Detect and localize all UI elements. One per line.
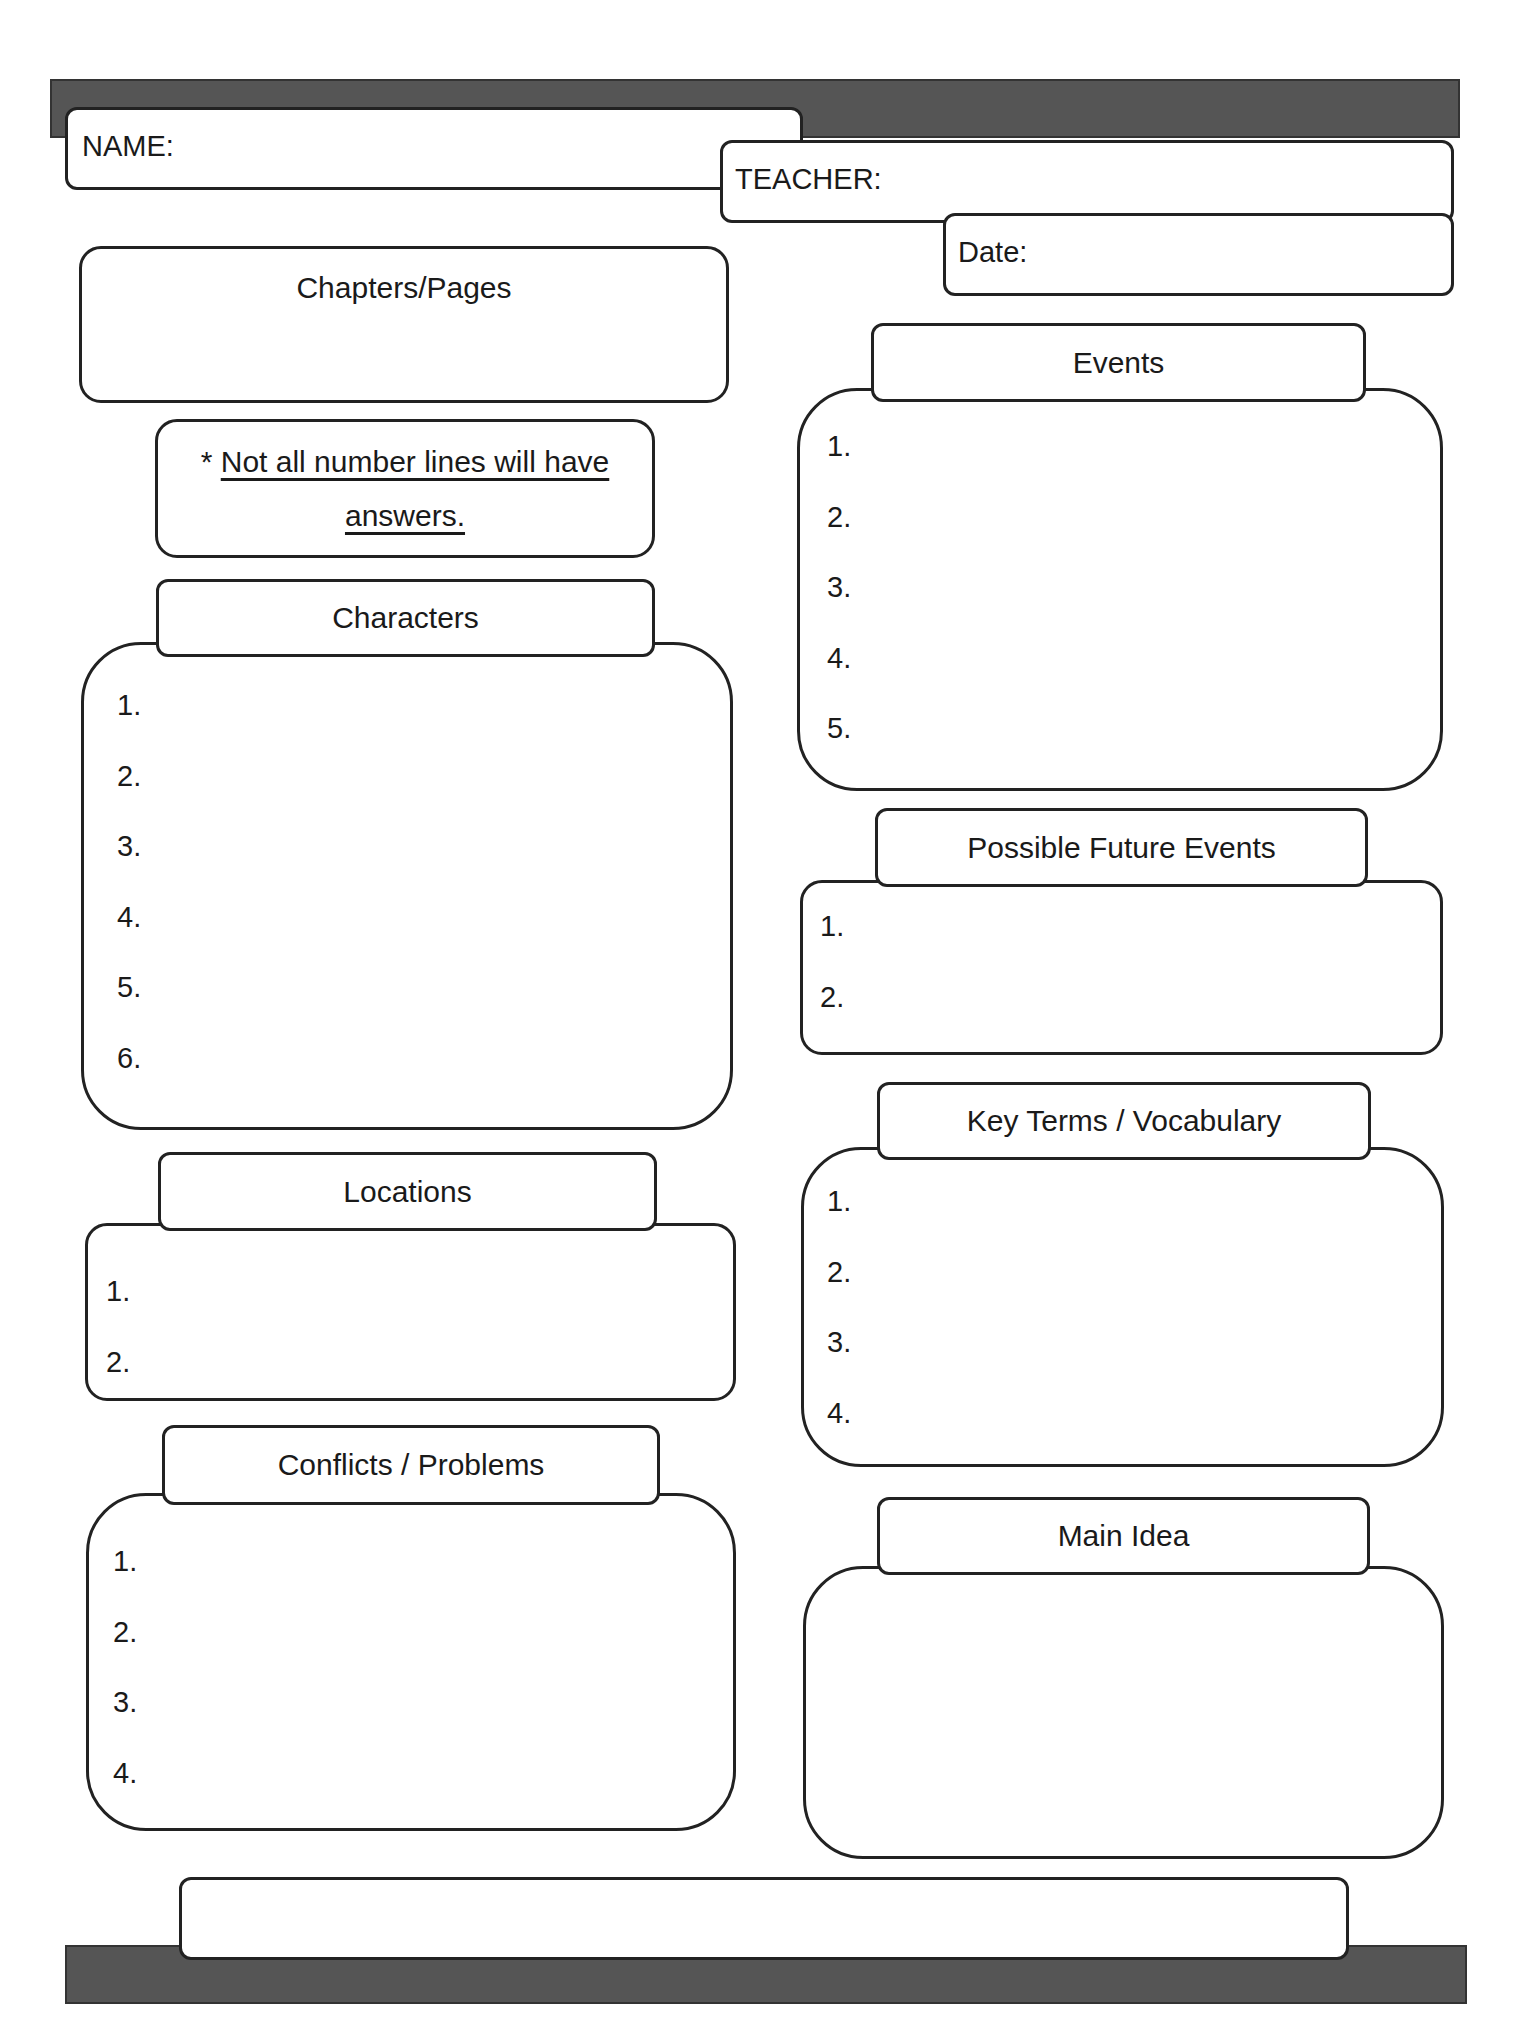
list-item: 5.	[827, 693, 851, 764]
list-item: 1.	[827, 411, 851, 482]
future-events-tab: Possible Future Events	[875, 808, 1368, 887]
list-item: 4.	[113, 1738, 137, 1809]
list-item: 5.	[117, 952, 141, 1023]
future-events-box[interactable]: 1. 2.	[800, 880, 1443, 1055]
conflicts-title: Conflicts / Problems	[278, 1448, 545, 1482]
teacher-field[interactable]: TEACHER:	[720, 140, 1454, 223]
list-item: 1.	[113, 1526, 137, 1597]
list-item: 6.	[117, 1023, 141, 1094]
teacher-label: TEACHER:	[735, 163, 882, 196]
key-terms-list: 1. 2. 3. 4.	[827, 1166, 851, 1448]
main-idea-title: Main Idea	[1058, 1519, 1190, 1553]
events-box[interactable]: 1. 2. 3. 4. 5.	[797, 388, 1443, 791]
characters-box[interactable]: 1. 2. 3. 4. 5. 6.	[81, 642, 733, 1130]
date-field[interactable]: Date:	[943, 213, 1454, 296]
list-item: 3.	[827, 1307, 851, 1378]
list-item: 4.	[827, 623, 851, 694]
locations-title: Locations	[343, 1175, 471, 1209]
events-tab: Events	[871, 323, 1366, 402]
list-item: 3.	[113, 1667, 137, 1738]
date-label: Date:	[958, 236, 1027, 269]
locations-tab: Locations	[158, 1152, 657, 1231]
locations-list: 1. 2.	[106, 1256, 130, 1397]
list-item: 2.	[117, 741, 141, 812]
conflicts-box[interactable]: 1. 2. 3. 4.	[86, 1493, 736, 1831]
list-item: 1.	[106, 1256, 130, 1327]
key-terms-title: Key Terms / Vocabulary	[967, 1104, 1282, 1138]
list-item: 2.	[827, 482, 851, 553]
list-item: 4.	[117, 882, 141, 953]
chapters-title: Chapters/Pages	[296, 271, 511, 400]
characters-title: Characters	[332, 601, 479, 635]
list-item: 1.	[117, 670, 141, 741]
list-item: 2.	[113, 1597, 137, 1668]
future-events-list: 1. 2.	[820, 891, 844, 1032]
list-item: 4.	[827, 1378, 851, 1449]
main-idea-box[interactable]	[803, 1566, 1444, 1859]
list-item: 2.	[820, 962, 844, 1033]
events-title: Events	[1073, 346, 1165, 380]
chapters-box[interactable]: Chapters/Pages	[79, 246, 729, 403]
name-field[interactable]: NAME:	[65, 107, 803, 190]
future-events-title: Possible Future Events	[967, 831, 1275, 865]
name-label: NAME:	[82, 130, 174, 163]
key-terms-tab: Key Terms / Vocabulary	[877, 1082, 1371, 1160]
characters-tab: Characters	[156, 579, 655, 657]
key-terms-box[interactable]: 1. 2. 3. 4.	[801, 1147, 1444, 1467]
list-item: 3.	[117, 811, 141, 882]
list-item: 2.	[106, 1327, 130, 1398]
list-item: 1.	[820, 891, 844, 962]
conflicts-list: 1. 2. 3. 4.	[113, 1526, 137, 1808]
characters-list: 1. 2. 3. 4. 5. 6.	[117, 670, 141, 1093]
locations-box[interactable]: 1. 2.	[85, 1223, 736, 1401]
events-list: 1. 2. 3. 4. 5.	[827, 411, 851, 764]
footer-box[interactable]	[179, 1877, 1349, 1960]
note-line-2: answers.	[345, 489, 465, 543]
list-item: 3.	[827, 552, 851, 623]
list-item: 2.	[827, 1237, 851, 1308]
note-line-1: * Not all number lines will have	[201, 435, 610, 489]
conflicts-tab: Conflicts / Problems	[162, 1425, 660, 1505]
main-idea-tab: Main Idea	[877, 1497, 1370, 1575]
list-item: 1.	[827, 1166, 851, 1237]
note-box: * Not all number lines will have answers…	[155, 419, 655, 558]
